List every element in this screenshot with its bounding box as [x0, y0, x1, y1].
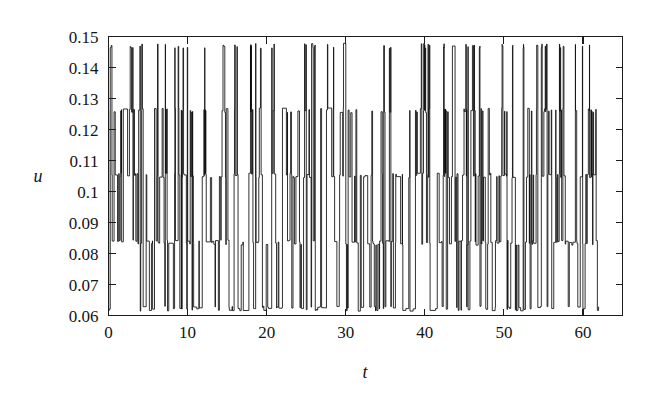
y-tick-label: 0.06 [69, 307, 99, 326]
y-tick-label: 0.11 [69, 152, 98, 171]
x-tick-label: 50 [495, 323, 512, 342]
x-tick-label: 60 [574, 323, 591, 342]
x-tick-label: 30 [337, 323, 354, 342]
x-tick-label: 10 [179, 323, 196, 342]
chart-figure: 0.060.070.080.090.10.110.120.130.140.15 … [0, 0, 653, 394]
y-tick-label: 0.14 [69, 59, 99, 78]
x-tick-label: 20 [258, 323, 275, 342]
x-tick-label: 0 [104, 323, 113, 342]
y-tick-label: 0.12 [69, 121, 99, 140]
y-tick-label: 0.13 [69, 90, 99, 109]
y-tick-label: 0.07 [69, 276, 99, 295]
x-tick-label: 40 [416, 323, 433, 342]
y-axis-title: u [34, 166, 43, 186]
y-tick-label: 0.08 [69, 245, 99, 264]
y-tick-label: 0.15 [69, 28, 99, 47]
y-tick-label: 0.09 [69, 214, 99, 233]
y-tick-label: 0.1 [77, 183, 98, 202]
